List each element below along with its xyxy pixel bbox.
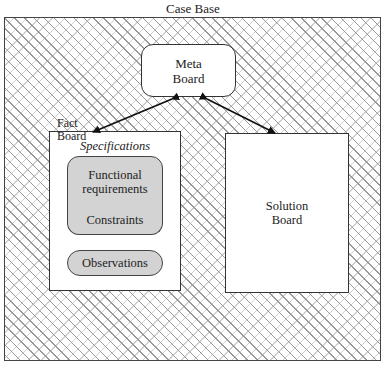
arrow-meta-solution [207, 99, 275, 133]
arrow-meta-fact [93, 99, 172, 132]
connection-arrows [0, 0, 386, 372]
